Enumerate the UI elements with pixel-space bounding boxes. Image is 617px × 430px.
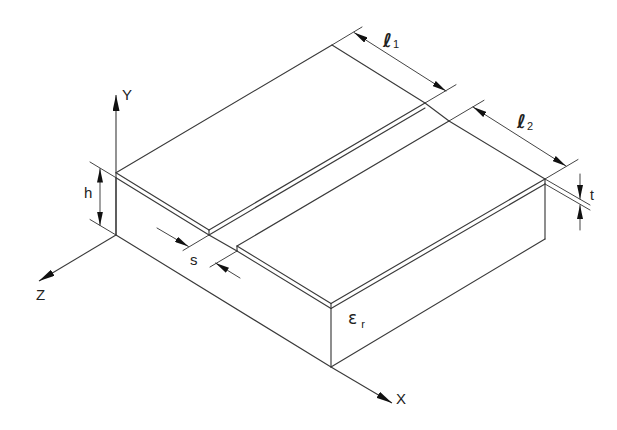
strip-2 xyxy=(237,121,545,309)
t-extension-bottom xyxy=(545,184,590,210)
length-2-dimension: ℓ2 xyxy=(449,100,578,179)
coupled-strip-diagram: Y Z X h s ℓ1 ℓ2 xyxy=(0,0,617,430)
l1-extension-left xyxy=(332,27,362,45)
x-axis-label: X xyxy=(396,390,406,407)
diagram-canvas: Y Z X h s ℓ1 ℓ2 xyxy=(0,0,617,430)
s-extension-left xyxy=(183,235,209,251)
l1-label: ℓ1 xyxy=(382,29,399,51)
permittivity-subscript: r xyxy=(361,318,365,330)
s-left-arrow-icon xyxy=(157,228,189,247)
substrate-top-gap-front-edge xyxy=(209,235,237,251)
strip-2-left-edge xyxy=(237,121,449,246)
l2-label: ℓ2 xyxy=(516,110,533,132)
strip-1-right-top-edge xyxy=(209,103,425,230)
strip-1-left-edge xyxy=(116,45,332,173)
strip-2-right-top-edge xyxy=(331,179,545,304)
strip-2-front-top-edge xyxy=(237,246,331,304)
t-extension-top xyxy=(545,179,590,205)
l2-subscript: 2 xyxy=(527,120,533,132)
strip-1-right-bottom-edge xyxy=(209,108,425,235)
h-label: h xyxy=(84,184,92,201)
s-label: s xyxy=(190,251,198,268)
gap-dimension: s xyxy=(157,228,240,278)
s-extension-right xyxy=(210,251,237,267)
permittivity-label: εr xyxy=(348,308,365,330)
z-axis-label: Z xyxy=(36,286,45,303)
height-dimension: h xyxy=(84,162,116,235)
l1-dimension-arrow-icon xyxy=(354,33,446,92)
strip-2-front-bottom-edge xyxy=(237,251,331,309)
length-1-dimension: ℓ1 xyxy=(332,27,456,103)
l1-symbol: ℓ xyxy=(382,29,392,51)
l2-symbol: ℓ xyxy=(516,110,526,132)
permittivity-symbol: ε xyxy=(348,308,357,328)
strip-1-front-bottom-edge xyxy=(116,178,209,235)
z-axis-arrow-icon xyxy=(39,235,116,281)
h-extension-bottom xyxy=(90,220,116,236)
substrate xyxy=(116,103,545,367)
y-axis-label: Y xyxy=(122,86,132,103)
t-label: t xyxy=(590,187,594,203)
substrate-top-gap-back-edge xyxy=(425,103,449,121)
x-axis-arrow-icon xyxy=(331,367,392,403)
substrate-bottom-front-edge xyxy=(116,235,331,367)
l2-extension-right xyxy=(545,160,578,180)
strip-1 xyxy=(116,45,425,235)
l1-subscript: 1 xyxy=(393,38,399,50)
substrate-bottom-right-edge xyxy=(331,239,545,367)
permittivity-label-group: εr xyxy=(348,308,365,330)
strip-2-right-bottom-edge xyxy=(331,184,545,309)
coordinate-axes: Y Z X xyxy=(36,86,406,407)
thickness-dimension: t xyxy=(545,174,594,230)
strip-1-front-top-edge xyxy=(116,173,209,230)
h-extension-top xyxy=(90,162,116,178)
strip-1-back-edge xyxy=(332,45,425,103)
s-right-arrow-icon xyxy=(216,263,241,278)
